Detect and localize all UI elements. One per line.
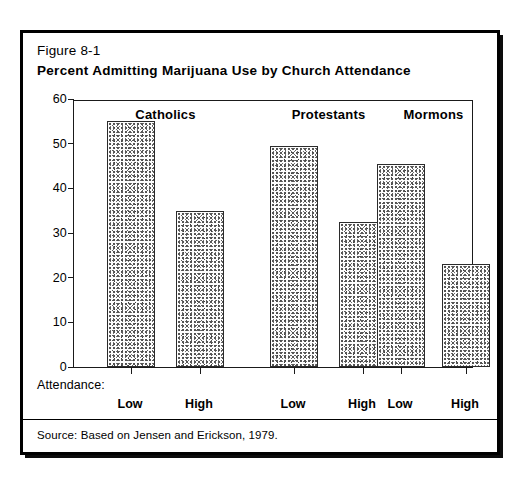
y-axis-tick-mark <box>68 233 74 234</box>
bar <box>270 146 318 367</box>
attendance-axis-label: Attendance: <box>37 378 105 392</box>
bar <box>176 211 224 367</box>
y-axis-tick: 60 <box>43 92 74 106</box>
y-axis-tick-mark <box>68 367 74 368</box>
y-axis-tick-label: 20 <box>43 271 67 285</box>
x-axis-tick-mark <box>466 367 467 374</box>
figure-title: Percent Admitting Marijuana Use by Churc… <box>37 63 411 78</box>
y-axis-tick: 30 <box>43 226 74 240</box>
source-note: Source: Based on Jensen and Erickson, 19… <box>37 429 278 441</box>
y-axis-tick-mark <box>68 99 74 100</box>
attendance-value-label: High <box>348 397 376 411</box>
y-axis-tick-mark <box>68 188 74 189</box>
y-axis-tick-mark <box>68 143 74 144</box>
x-axis-tick-mark <box>401 367 402 374</box>
source-divider <box>23 419 497 420</box>
bar <box>442 264 490 367</box>
y-axis-tick-label: 50 <box>43 137 67 151</box>
y-axis-tick-mark <box>68 277 74 278</box>
attendance-value-label: Low <box>388 397 413 411</box>
x-axis-tick-mark <box>294 367 295 374</box>
y-axis-tick: 10 <box>43 315 74 329</box>
x-axis-tick-mark <box>131 367 132 374</box>
y-axis-tick-label: 60 <box>43 92 67 106</box>
group-heading: Protestants <box>292 107 366 122</box>
bar <box>377 164 425 367</box>
figure-frame: Figure 8-1 Percent Admitting Marijuana U… <box>20 30 500 455</box>
y-axis-tick-label: 40 <box>43 181 67 195</box>
attendance-value-label: Low <box>118 397 143 411</box>
x-axis-tick-mark <box>363 367 364 374</box>
attendance-value-label: High <box>185 397 213 411</box>
y-axis-tick: 0 <box>43 360 74 374</box>
y-axis-tick-mark <box>68 322 74 323</box>
y-axis-tick: 40 <box>43 181 74 195</box>
y-axis-tick-label: 30 <box>43 226 67 240</box>
figure-caption: Figure 8-1 Percent Admitting Marijuana U… <box>37 43 411 78</box>
attendance-value-label: Low <box>281 397 306 411</box>
chart-plot-area: 0102030405060 CatholicsProtestantsMormon… <box>73 100 473 368</box>
attendance-value-label: High <box>451 397 479 411</box>
x-axis-tick-mark <box>200 367 201 374</box>
y-axis-tick: 50 <box>43 137 74 151</box>
group-heading: Mormons <box>404 107 464 122</box>
y-axis-tick-label: 0 <box>43 360 67 374</box>
y-axis-tick-label: 10 <box>43 315 67 329</box>
figure-number: Figure 8-1 <box>37 43 411 58</box>
y-axis-tick: 20 <box>43 271 74 285</box>
group-heading: Catholics <box>135 107 195 122</box>
bar <box>107 121 155 367</box>
